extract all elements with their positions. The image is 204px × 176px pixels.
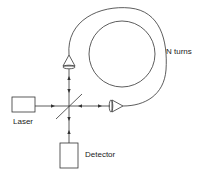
arrow-icon bbox=[67, 130, 70, 134]
right-lens bbox=[112, 100, 123, 112]
arrow-icon bbox=[51, 104, 55, 107]
arrow-icon bbox=[67, 89, 70, 93]
arrow-icon bbox=[98, 104, 102, 107]
coil-label: N turns bbox=[166, 47, 192, 56]
detector-label: Detector bbox=[85, 150, 115, 159]
detector-box bbox=[60, 143, 78, 168]
fiber-coil-inner bbox=[89, 21, 155, 87]
arrow-icon bbox=[67, 117, 70, 121]
fiber-coil-outer bbox=[69, 8, 166, 106]
arrow-icon bbox=[67, 76, 70, 80]
arrow-icon bbox=[78, 104, 82, 107]
top-lens bbox=[63, 55, 75, 66]
laser-box bbox=[12, 97, 35, 112]
laser-label: Laser bbox=[13, 117, 33, 126]
